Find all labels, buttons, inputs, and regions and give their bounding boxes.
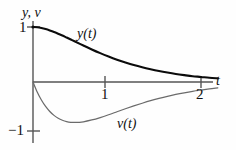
y-tick-label-1: 1 [19, 20, 27, 35]
x-tick-label-1: 1 [101, 87, 109, 102]
y-intercept-marker [31, 25, 34, 28]
curve-y-of-t [33, 27, 218, 78]
vertical-axis-label: y, v [22, 6, 41, 20]
x-tick-label-2: 2 [196, 87, 204, 102]
figure-container: y, v t y(t) v(t) 1 −1 1 2 [0, 0, 236, 150]
curve-label-y: y(t) [77, 27, 96, 41]
horizontal-axis-label: t [216, 74, 220, 88]
y-tick-label-minus-1: −1 [8, 123, 24, 138]
curve-label-v: v(t) [117, 117, 136, 131]
